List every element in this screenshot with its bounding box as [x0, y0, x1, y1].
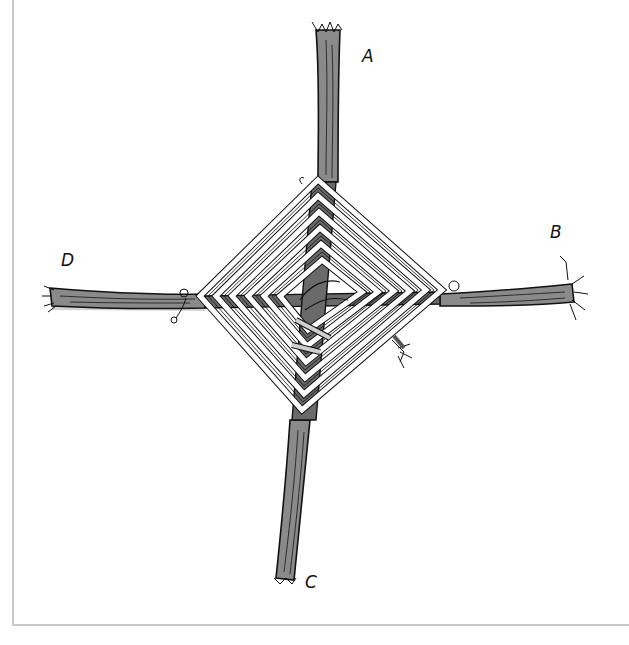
- label-a: A: [362, 48, 374, 65]
- label-d: D: [61, 252, 74, 269]
- cross-illustration: [0, 0, 629, 645]
- label-c: C: [305, 574, 317, 591]
- label-b: B: [550, 224, 562, 241]
